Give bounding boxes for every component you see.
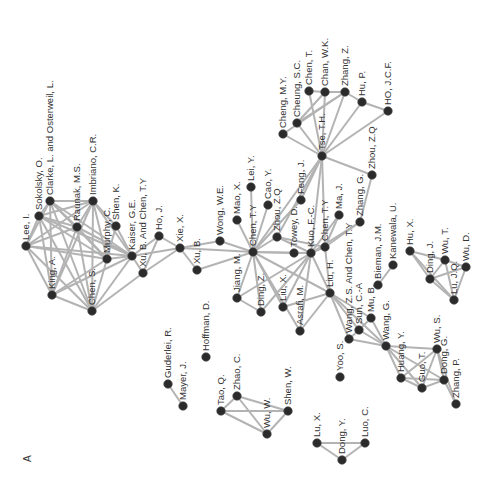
node-mao_x[interactable] (233, 216, 242, 225)
node-label-xie_x: Xie, X. (174, 214, 185, 242)
edge-tse-hu_p (322, 102, 362, 156)
node-ma_j[interactable] (335, 211, 344, 220)
node-hu_p[interactable] (358, 98, 367, 107)
node-label-cheng_my: Cheng, M.Y. (277, 76, 288, 128)
node-tse[interactable] (318, 152, 327, 161)
node-label-hu_p: Hu, P. (356, 71, 367, 96)
node-ding_j[interactable] (426, 275, 435, 284)
node-liu_h[interactable] (326, 289, 335, 298)
node-asrafi[interactable] (296, 327, 305, 336)
node-chen_s[interactable] (88, 307, 97, 316)
edge-chen_s-xu_b_chen (92, 273, 143, 311)
node-dong_g[interactable] (440, 376, 449, 385)
node-guderlei[interactable] (164, 380, 173, 389)
node-lee_i[interactable] (22, 242, 31, 251)
node-label-ding_z: Ding, Z. (255, 273, 266, 306)
node-ho_j[interactable] (155, 232, 164, 241)
node-xie_x[interactable] (176, 244, 185, 253)
node-kaiser[interactable] (128, 252, 137, 261)
node-label-chen_s: Chen, S. (86, 268, 97, 305)
node-label-zhang_p: Zhang, P. (450, 358, 461, 398)
node-label-king: King, A. (46, 256, 57, 289)
node-hoffman[interactable] (202, 353, 211, 362)
node-tao_q[interactable] (217, 407, 226, 416)
node-mu_b[interactable] (367, 314, 376, 323)
node-mayer[interactable] (179, 402, 188, 411)
node-zhou_zq[interactable] (368, 171, 377, 180)
node-ho_jcf[interactable] (384, 107, 393, 116)
node-label-liu_h: Liu, H. (324, 260, 335, 287)
node-chen_ty[interactable] (249, 248, 258, 257)
node-kanewala[interactable] (389, 261, 398, 270)
node-hu_x[interactable] (406, 247, 415, 256)
node-label-zhang_g: Zhang, G. (354, 174, 365, 216)
node-label-zhang_z: Zhang, Z. (339, 45, 350, 86)
node-raunak[interactable] (73, 223, 82, 232)
node-label-xu_b_chen: Xu, B. And Chen, T.Y (137, 177, 148, 267)
node-xu_b[interactable] (193, 266, 202, 275)
node-label-dong_g: Dong, G. (438, 336, 449, 374)
node-murphy[interactable] (103, 255, 112, 264)
node-wong_we[interactable] (216, 237, 225, 246)
node-label-yoo_s: Yoo, S. (334, 341, 345, 371)
node-label-sokolsky: Sokolsky, O. (33, 157, 44, 210)
node-lu_jq[interactable] (450, 296, 459, 305)
node-chen_ty2[interactable] (321, 243, 330, 252)
node-yoo_s[interactable] (336, 373, 345, 382)
node-lei_y[interactable] (247, 183, 256, 192)
node-zhao_c[interactable] (233, 392, 242, 401)
node-label-lu_jq: Lu, J.Q. (448, 261, 459, 294)
node-label-towey: Towey, D. (288, 206, 299, 247)
node-luo_c[interactable] (361, 439, 370, 448)
node-zhang_p[interactable] (452, 400, 461, 409)
node-clarke[interactable] (46, 197, 55, 206)
node-sokolsky[interactable] (35, 212, 44, 221)
node-feng_j[interactable] (297, 196, 306, 205)
node-guo_t[interactable] (418, 384, 427, 393)
node-label-hu_x: Hu, X. (404, 219, 415, 245)
node-label-kanewala: Kanewala, U. (387, 202, 398, 259)
node-label-shen_k: Shen, K. (110, 184, 121, 220)
node-towey[interactable] (290, 249, 299, 258)
node-lu_x[interactable] (313, 439, 322, 448)
node-shen_w[interactable] (284, 407, 293, 416)
node-wu_w[interactable] (263, 430, 272, 439)
node-wu_d[interactable] (462, 263, 471, 272)
node-chen_t[interactable] (305, 87, 314, 96)
node-cheung[interactable] (293, 119, 302, 128)
node-jiang_m[interactable] (233, 294, 242, 303)
edge-tse-ho_jcf (322, 111, 388, 156)
node-label-zhao_c: Zhao, C. (231, 354, 242, 390)
node-label-jiang_m: Jiang, M. (231, 253, 242, 292)
node-label-wong_we: Wong, W.E. (214, 185, 225, 235)
node-label-ho_jcf: HO, J.C.F. (382, 61, 393, 105)
coauthorship-network: Lee, I.Sokolsky, O.Clarke, L. and Osterw… (0, 0, 489, 490)
edge-wang_g-wu_s (386, 346, 437, 349)
node-liu_x[interactable] (279, 303, 288, 312)
node-label-ho_j: Ho, J. (153, 205, 164, 230)
node-imbriano[interactable] (89, 197, 98, 206)
node-label-mu_b: Mu, B. (365, 285, 376, 312)
node-xu_b_chen[interactable] (139, 269, 148, 278)
node-shen_k[interactable] (112, 222, 121, 231)
node-label-kuo: Kuo, F.-C. (305, 205, 316, 247)
node-label-clarke: Clarke, L. and Osterweil, L. (44, 80, 55, 195)
node-king[interactable] (48, 291, 57, 300)
node-label-hoffman: Hoffman, D. (200, 300, 211, 351)
node-dong_y[interactable] (338, 456, 347, 465)
node-wang_g[interactable] (382, 342, 391, 351)
node-label-imbriano: Imbriano, C.R. (87, 134, 98, 195)
node-zhang_g[interactable] (356, 218, 365, 227)
node-zhang_z[interactable] (341, 88, 350, 97)
node-huang_y[interactable] (397, 374, 406, 383)
node-label-kaiser: Kaiser, G.E. (126, 199, 137, 250)
node-wang_zs[interactable] (345, 335, 354, 344)
node-zhou_zq2[interactable] (273, 233, 282, 242)
node-kuo[interactable] (307, 249, 316, 258)
node-chan_wk[interactable] (321, 88, 330, 97)
node-sun_ca[interactable] (355, 326, 364, 335)
node-cheng_my[interactable] (279, 130, 288, 139)
node-label-lei_y: Lei, Y. (245, 155, 256, 181)
node-ding_z[interactable] (257, 308, 266, 317)
node-label-chan_wk: Chan, W.K. (319, 38, 330, 86)
